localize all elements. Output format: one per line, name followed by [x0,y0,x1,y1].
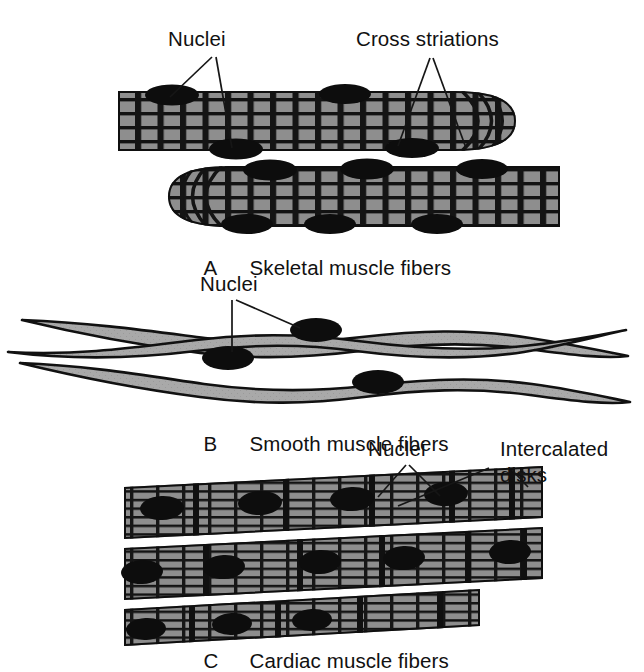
panel-c-cardiac [120,465,543,646]
nucleus [221,214,273,234]
label-text: Cross striations [356,27,499,51]
nucleus [456,159,508,179]
nucleus [304,214,356,234]
caption-c-text: Cardiac muscle fibers [250,649,449,672]
caption-b-text: Smooth muscle fibers [250,432,449,455]
nucleus [202,346,254,370]
caption-b: BSmooth muscle fibers [192,408,449,456]
nucleus [411,214,463,234]
nucleus [385,138,439,158]
caption-a-text: Skeletal muscle fibers [250,256,452,279]
label-text-line1: Intercalated [500,437,608,461]
caption-b-letter: B [204,432,250,456]
nucleus [243,160,297,181]
caption-c: CCardiac muscle fibers [192,625,449,672]
nucleus [209,139,263,160]
caption-a: ASkeletal muscle fibers [192,232,451,280]
nucleus [319,84,371,104]
nucleus [352,370,404,394]
nucleus [340,159,394,180]
label-text: Nuclei [168,27,226,51]
nucleus [290,318,342,342]
label-text-line2: disks [500,463,547,487]
caption-a-letter: A [204,256,250,280]
skeletal-fiber-2 [168,159,560,235]
caption-c-letter: C [204,649,250,672]
